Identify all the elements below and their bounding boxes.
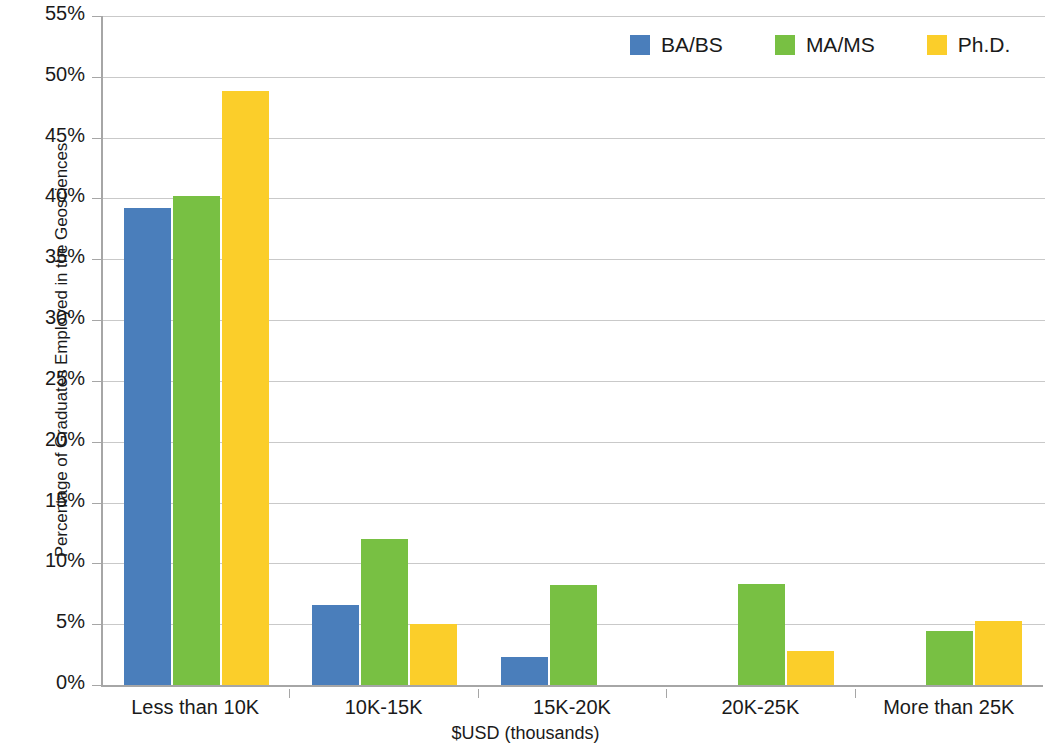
y-axis-tick-label: 10% (0, 549, 85, 572)
x-axis-group-label: Less than 10K (101, 696, 289, 719)
y-axis-tick-label: 5% (0, 610, 85, 633)
y-axis-tick-mark (92, 442, 101, 443)
y-axis-tick-mark (92, 685, 101, 686)
y-axis-tick-label: 50% (0, 63, 85, 86)
y-axis-tick-label: 15% (0, 489, 85, 512)
legend-entry: BA/BS (630, 33, 723, 57)
bar (738, 584, 785, 685)
bar (975, 621, 1022, 685)
legend: BA/BSMA/MSPh.D. (630, 33, 1010, 57)
x-axis-group-label: 20K-25K (666, 696, 854, 719)
y-axis-tick-label: 35% (0, 245, 85, 268)
x-axis-group-label: More than 25K (855, 696, 1043, 719)
bar (926, 631, 973, 685)
y-axis-tick-label: 55% (0, 2, 85, 25)
legend-label: MA/MS (806, 33, 875, 57)
bar (222, 91, 269, 685)
bar (410, 624, 457, 685)
y-axis-tick-label: 20% (0, 428, 85, 451)
bar (501, 657, 548, 685)
y-axis-tick-mark (92, 381, 101, 382)
y-axis-tick-mark (92, 138, 101, 139)
x-axis-group-label: 15K-20K (478, 696, 666, 719)
legend-swatch-icon (630, 35, 650, 55)
bar (173, 196, 220, 685)
y-axis-tick-mark (92, 503, 101, 504)
bar (550, 585, 597, 685)
bar (787, 651, 834, 685)
legend-swatch-icon (927, 35, 947, 55)
legend-swatch-icon (775, 35, 795, 55)
legend-label: Ph.D. (958, 33, 1011, 57)
y-axis-tick-mark (92, 198, 101, 199)
bar (312, 605, 359, 685)
y-axis-tick-mark (92, 320, 101, 321)
x-axis-title: $USD (thousands) (0, 723, 1051, 744)
legend-label: BA/BS (661, 33, 723, 57)
bars-layer (103, 16, 1045, 685)
y-axis-tick-mark (92, 624, 101, 625)
y-axis-tick-label: 45% (0, 124, 85, 147)
y-axis-tick-mark (92, 77, 101, 78)
x-axis-group-label: 10K-15K (289, 696, 477, 719)
plot-area (101, 16, 1043, 687)
y-axis-tick-label: 25% (0, 367, 85, 390)
y-axis-tick-label: 40% (0, 184, 85, 207)
bar (124, 208, 171, 685)
y-axis-tick-label: 30% (0, 306, 85, 329)
bar (361, 539, 408, 685)
y-axis-tick-mark (92, 563, 101, 564)
y-axis-tick-label: 0% (0, 671, 85, 694)
y-axis-tick-mark (92, 16, 101, 17)
bar-chart: Percentage of Graduates Employed in the … (0, 0, 1051, 751)
legend-entry: MA/MS (775, 33, 875, 57)
legend-entry: Ph.D. (927, 33, 1011, 57)
y-axis-tick-mark (92, 259, 101, 260)
